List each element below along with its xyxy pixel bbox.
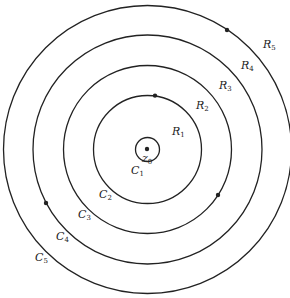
region-label-r5: R5 (262, 38, 276, 52)
point-on-c4 (44, 201, 48, 205)
region-label-r1: R1 (171, 125, 185, 139)
circle-label-c5: C5 (35, 251, 48, 265)
center-point (145, 147, 149, 151)
region-label-r2: R2 (195, 99, 209, 113)
point-on-c2 (153, 93, 157, 97)
circle-label-c2: C2 (99, 188, 112, 202)
concentric-circles-diagram: z0 C1 C2 C3 C4 C5 R1 R2 R3 R4 R5 (0, 0, 290, 298)
center-label: z0 (141, 152, 152, 166)
region-label-r3: R3 (218, 79, 232, 93)
point-on-c5 (225, 28, 229, 32)
point-on-c3 (216, 193, 220, 197)
circle-label-c1: C1 (131, 164, 144, 178)
region-label-r4: R4 (240, 59, 254, 73)
